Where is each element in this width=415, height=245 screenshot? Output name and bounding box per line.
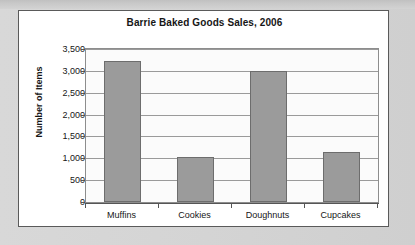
x-axis-tick-mark xyxy=(158,203,159,208)
x-axis-tick-mark xyxy=(304,203,305,208)
x-axis-tick-label: Cookies xyxy=(158,210,231,220)
bar-group xyxy=(305,49,378,202)
y-axis-tick-label: 2,000 xyxy=(43,111,85,120)
chart-card: Barrie Baked Goods Sales, 2006 Number of… xyxy=(18,10,389,227)
x-axis-tick-mark xyxy=(85,203,86,208)
x-axis-tick-label: Cupcakes xyxy=(304,210,377,220)
x-axis-line xyxy=(85,203,379,204)
y-axis-tick-label: 2,500 xyxy=(43,89,85,98)
bar-cupcakes[interactable] xyxy=(323,152,360,202)
bar-group xyxy=(86,49,159,202)
x-axis-tick-label: Muffins xyxy=(85,210,158,220)
bar-group xyxy=(232,49,305,202)
y-axis-tick-label: 1,000 xyxy=(43,154,85,163)
bar-muffins[interactable] xyxy=(104,61,141,202)
y-axis-tick-group: 05001,0001,5002,0002,5003,0003,500 xyxy=(35,48,85,203)
bars-layer xyxy=(86,49,378,202)
y-axis-tick-label: 1,500 xyxy=(43,132,85,141)
y-axis-tick-label: 0 xyxy=(43,198,85,207)
y-axis-tick-label: 3,500 xyxy=(43,45,85,54)
x-axis-tick-mark xyxy=(231,203,232,208)
top-gradient-band xyxy=(0,0,415,9)
y-axis-tick-label: 3,000 xyxy=(43,67,85,76)
x-axis-tick-label: Doughnuts xyxy=(231,210,304,220)
y-axis-tick-label: 500 xyxy=(43,176,85,185)
bar-group xyxy=(159,49,232,202)
bar-doughnuts[interactable] xyxy=(250,71,287,202)
x-axis-tick-mark xyxy=(377,203,378,208)
chart-title: Barrie Baked Goods Sales, 2006 xyxy=(19,17,390,28)
bar-cookies[interactable] xyxy=(177,157,214,202)
